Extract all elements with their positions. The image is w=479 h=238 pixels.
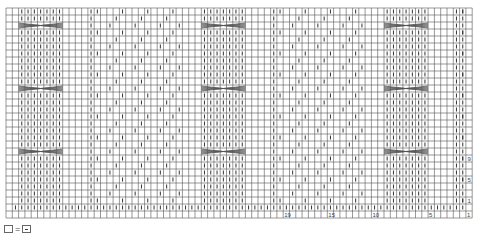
svg-text:9: 9 xyxy=(467,156,471,162)
svg-text:1: 1 xyxy=(467,212,471,218)
svg-text:1: 1 xyxy=(467,198,471,204)
legend-purl-square-icon xyxy=(22,225,31,233)
legend-equals: = xyxy=(15,224,20,234)
legend: = xyxy=(4,224,31,234)
svg-text:19: 19 xyxy=(284,212,291,218)
knitting-chart: 19151051951 xyxy=(0,0,479,222)
svg-text:5: 5 xyxy=(467,177,471,183)
svg-text:10: 10 xyxy=(372,212,379,218)
svg-text:5: 5 xyxy=(429,212,433,218)
svg-text:15: 15 xyxy=(328,212,335,218)
legend-empty-square-icon xyxy=(4,225,13,233)
